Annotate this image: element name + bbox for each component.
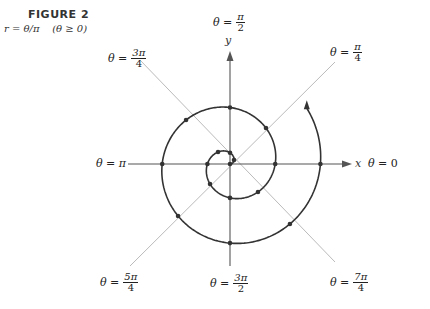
ray-label-3pi-over-4: θ = 3π4	[108, 48, 146, 69]
ray-label-prefix: θ =	[330, 46, 349, 59]
ray-label-prefix: θ =	[96, 157, 115, 170]
ray-label-0: θ = 0	[368, 157, 398, 170]
diagonal-ray	[140, 60, 335, 262]
spiral-point	[228, 105, 233, 110]
ray-label-prefix: θ =	[210, 277, 229, 290]
ray-label-pi: θ = π	[96, 157, 126, 170]
coordinate-axes	[128, 51, 352, 266]
fraction-denominator: 2	[237, 284, 245, 294]
spiral-point	[318, 162, 323, 167]
spiral-point	[264, 126, 269, 131]
ray-label-5pi-over-4: θ = 5π4	[100, 272, 138, 293]
ray-label-pi-over-2: θ = π2	[213, 12, 245, 33]
ray-label-pi-over-4: θ = π4	[330, 42, 362, 63]
spiral-point	[232, 158, 237, 163]
ray-label-value: 0	[391, 157, 398, 170]
y-axis-label: y	[225, 34, 231, 47]
ray-label-value: π	[119, 157, 126, 170]
ray-label-prefix: θ =	[108, 52, 127, 65]
spiral-point	[228, 150, 233, 155]
fraction-denominator: 2	[236, 23, 244, 33]
spiral-point	[160, 162, 165, 167]
spiral-point	[205, 162, 210, 167]
ray-label-prefix: θ =	[213, 16, 232, 29]
y-axis-arrow-icon	[227, 51, 234, 61]
figure-title: FIGURE 2	[28, 8, 89, 21]
ray-label-prefix: θ =	[368, 157, 387, 170]
spiral-point	[216, 150, 221, 155]
spiral-point	[176, 214, 181, 219]
figure-equation: r = θ/π (θ ≥ 0)	[4, 23, 87, 34]
ray-label-prefix: θ =	[330, 276, 349, 289]
spiral-point	[288, 222, 293, 227]
spiral-arrow-icon	[304, 100, 310, 109]
ray-label-prefix: θ =	[100, 276, 119, 289]
spiral-point	[228, 196, 233, 201]
spiral-point	[273, 162, 278, 167]
fraction-denominator: 4	[127, 283, 135, 293]
spiral-point	[208, 182, 213, 187]
spiral-point	[228, 241, 233, 246]
x-axis-label: x	[355, 157, 361, 170]
fraction-denominator: 4	[353, 53, 361, 63]
spiral-point	[228, 162, 233, 167]
spiral-point	[184, 118, 189, 123]
fraction-denominator: 4	[357, 283, 365, 293]
ray-label-7pi-over-4: θ = 7π4	[330, 272, 368, 293]
x-axis-arrow-icon	[342, 161, 352, 168]
spiral-figure	[0, 0, 430, 309]
ray-label-3pi-over-2: θ = 3π2	[210, 273, 248, 294]
fraction-denominator: 4	[135, 59, 143, 69]
spiral-point	[256, 190, 261, 195]
